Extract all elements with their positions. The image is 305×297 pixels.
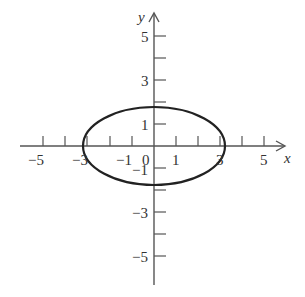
x-tick-label: 3 bbox=[216, 152, 224, 168]
y-tick-label: 5 bbox=[141, 29, 149, 45]
plot-canvas: x y −5 −3 −1 0 1 3 5 5 3 1 −1 −3 −5 bbox=[0, 0, 305, 297]
x-tick-label: −3 bbox=[72, 152, 88, 168]
y-tick-label: −3 bbox=[132, 205, 148, 221]
y-axis bbox=[149, 13, 159, 285]
x-axis-label: x bbox=[283, 150, 291, 166]
y-tick-label: −1 bbox=[132, 162, 148, 178]
x-tick-label: −5 bbox=[28, 152, 44, 168]
x-axis bbox=[20, 141, 285, 151]
y-tick-label: −5 bbox=[132, 249, 148, 265]
y-axis-label: y bbox=[136, 9, 145, 25]
y-tick-label: 3 bbox=[141, 73, 149, 89]
x-tick-label: −1 bbox=[116, 152, 132, 168]
x-tick-label: 1 bbox=[172, 152, 180, 168]
y-tick-label: 1 bbox=[141, 117, 149, 133]
x-tick-label: 5 bbox=[260, 152, 268, 168]
ellipse-diagram: x y −5 −3 −1 0 1 3 5 5 3 1 −1 −3 −5 bbox=[0, 0, 305, 297]
